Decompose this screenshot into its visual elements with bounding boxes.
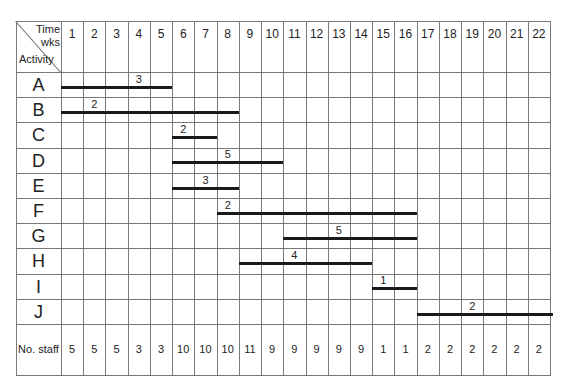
staff-count: 2 (461, 343, 483, 355)
activity-bar-h (239, 262, 372, 265)
week-header: 14 (350, 27, 372, 41)
activity-label-f: F (16, 201, 61, 222)
week-header: 17 (417, 27, 439, 41)
activity-label-i: I (16, 277, 61, 298)
activity-label-a: A (16, 75, 61, 96)
staff-count: 5 (105, 343, 127, 355)
week-header: 19 (461, 27, 483, 41)
week-header: 15 (372, 27, 394, 41)
bar-staff-label: 2 (218, 199, 238, 211)
activity-bar-e (172, 187, 239, 190)
bar-staff-label: 2 (462, 300, 482, 312)
staff-count: 2 (417, 343, 439, 355)
week-header: 20 (483, 27, 505, 41)
grid-vline (350, 21, 351, 375)
grid-vline (417, 21, 418, 375)
staff-count: 10 (217, 343, 239, 355)
corner-wks-label: wks (36, 36, 60, 48)
activity-bar-j (417, 313, 553, 316)
activity-bar-g (283, 237, 416, 240)
week-header: 7 (194, 27, 216, 41)
corner-activity-label: Activity (19, 53, 54, 65)
grid-vline (372, 21, 373, 375)
grid-vline (528, 21, 529, 375)
week-header: 18 (439, 27, 461, 41)
week-header: 16 (394, 27, 416, 41)
staff-count: 11 (239, 343, 261, 355)
activity-label-c: C (16, 125, 61, 146)
staff-count: 2 (439, 343, 461, 355)
staff-row-label: No. staff (16, 343, 61, 355)
grid-vline (439, 21, 440, 375)
week-header: 1 (61, 27, 83, 41)
grid-vline (239, 21, 240, 375)
bar-staff-label: 5 (329, 224, 349, 236)
grid-vline (194, 21, 195, 375)
week-header: 3 (105, 27, 127, 41)
staff-count: 9 (261, 343, 283, 355)
week-header: 12 (306, 27, 328, 41)
activity-bar-b (61, 111, 239, 114)
activity-bar-f (217, 212, 417, 215)
staff-count: 5 (61, 343, 83, 355)
corner-time-label: Time (36, 23, 60, 35)
activity-bar-c (172, 136, 216, 139)
grid-vline (394, 21, 395, 375)
bar-staff-label: 3 (129, 73, 149, 85)
staff-count: 3 (128, 343, 150, 355)
activity-label-g: G (16, 226, 61, 247)
staff-count: 9 (283, 343, 305, 355)
grid-vline (306, 21, 307, 375)
grid-vline (283, 21, 284, 375)
bar-staff-label: 3 (195, 174, 215, 186)
week-header: 13 (328, 27, 350, 41)
bar-staff-label: 4 (284, 249, 304, 261)
staff-count: 9 (306, 343, 328, 355)
activity-label-h: H (16, 251, 61, 272)
activity-label-e: E (16, 176, 61, 197)
bar-staff-label: 2 (173, 123, 193, 135)
activity-bar-d (172, 161, 283, 164)
staff-count: 2 (506, 343, 528, 355)
staff-count: 9 (328, 343, 350, 355)
week-header: 22 (528, 27, 550, 41)
staff-count: 3 (150, 343, 172, 355)
staff-count: 1 (372, 343, 394, 355)
week-header: 2 (83, 27, 105, 41)
week-header: 8 (217, 27, 239, 41)
bar-staff-label: 2 (84, 98, 104, 110)
staff-count: 1 (394, 343, 416, 355)
week-header: 6 (172, 27, 194, 41)
activity-bar-a (61, 86, 172, 89)
grid-vline (506, 21, 507, 375)
week-header: 11 (283, 27, 305, 41)
grid-vline (83, 21, 84, 375)
bar-staff-label: 5 (218, 148, 238, 160)
activity-label-b: B (16, 100, 61, 121)
week-header: 5 (150, 27, 172, 41)
grid-vline (61, 21, 62, 375)
week-header: 21 (506, 27, 528, 41)
week-header: 4 (128, 27, 150, 41)
bar-staff-label: 1 (373, 274, 393, 286)
week-header: 10 (261, 27, 283, 41)
staff-count: 2 (528, 343, 550, 355)
grid-vline (328, 21, 329, 375)
gantt-chart: TimewksActivity1234567891011121314151617… (0, 0, 563, 386)
grid-vline (261, 21, 262, 375)
activity-label-d: D (16, 151, 61, 172)
staff-count: 10 (194, 343, 216, 355)
grid-vline (105, 21, 106, 375)
grid-vline (550, 21, 551, 375)
grid-vline (172, 21, 173, 375)
staff-count: 9 (350, 343, 372, 355)
activity-bar-i (372, 287, 416, 290)
staff-count: 5 (83, 343, 105, 355)
week-header: 9 (239, 27, 261, 41)
activity-label-j: J (16, 302, 61, 323)
staff-count: 2 (483, 343, 505, 355)
grid-vline (461, 21, 462, 375)
grid-vline (483, 21, 484, 375)
grid-hline (16, 375, 551, 376)
grid-vline (150, 21, 151, 375)
